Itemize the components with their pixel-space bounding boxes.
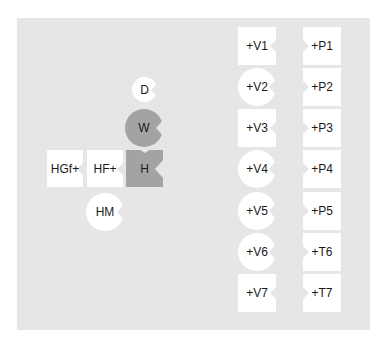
node-v6-label: +V6 [246, 245, 268, 259]
node-v5-label: +V5 [246, 204, 268, 218]
node-p1: +P1 [303, 27, 341, 65]
node-hf: HF+ [87, 150, 123, 187]
node-v7-label: +V7 [246, 286, 268, 300]
node-v7: +V7 [238, 274, 276, 312]
node-h: H [126, 150, 163, 187]
node-v3-label: +V3 [246, 121, 268, 135]
node-w: W [125, 109, 163, 147]
node-p2: +P2 [303, 68, 341, 106]
node-w-label: W [138, 121, 149, 135]
node-t7: +T7 [303, 274, 341, 312]
node-v5: +V5 [238, 192, 276, 230]
node-t7-label: +T7 [311, 286, 332, 300]
node-v1-label: +V1 [246, 39, 268, 53]
node-hf-label: HF+ [93, 162, 116, 176]
node-d-label: D [140, 83, 149, 97]
node-p4-label: +P4 [311, 162, 333, 176]
node-p2-label: +P2 [311, 80, 333, 94]
node-hm-label: HM [96, 205, 115, 219]
node-v1: +V1 [238, 27, 276, 65]
node-v4-label: +V4 [246, 162, 268, 176]
node-h-label: H [140, 162, 149, 176]
node-t6-label: +T6 [311, 245, 332, 259]
node-hgf-label: HGf+ [51, 162, 79, 176]
node-p3-label: +P3 [311, 121, 333, 135]
node-p5-label: +P5 [311, 204, 333, 218]
node-v3: +V3 [238, 109, 276, 147]
node-v6: +V6 [238, 233, 276, 271]
node-hgf: HGf+ [47, 150, 83, 187]
node-hm: HM [86, 193, 124, 231]
node-p5: +P5 [303, 192, 341, 230]
node-p1-label: +P1 [311, 39, 333, 53]
node-v2: +V2 [238, 68, 276, 106]
node-p4: +P4 [303, 150, 341, 188]
node-v4: +V4 [238, 150, 276, 188]
node-d: D [132, 77, 157, 102]
node-p3: +P3 [303, 109, 341, 147]
node-v2-label: +V2 [246, 80, 268, 94]
node-t6: +T6 [303, 233, 341, 271]
